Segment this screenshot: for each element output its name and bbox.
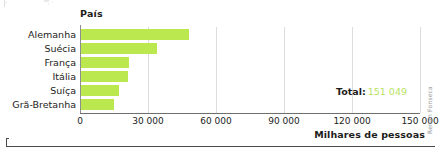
bar-row: [81, 99, 420, 110]
category-label: Suíça: [0, 85, 76, 96]
x-axis-line: [80, 113, 420, 114]
scan-artifact: [48, 3, 49, 5]
x-tick-label: 90 000: [268, 116, 300, 126]
bar-row: [81, 43, 420, 54]
page-bottom-rule-hook: [6, 138, 7, 147]
credit-text: Renan Fonseca: [426, 86, 433, 134]
bar: [81, 57, 129, 68]
scan-artifact: [5, 2, 7, 3]
bar: [81, 43, 157, 54]
x-tick-label: 0: [77, 116, 83, 126]
category-label: Grã-Bretanha: [0, 99, 76, 110]
bar: [81, 71, 128, 82]
bar-row: [81, 71, 420, 82]
bar-row: [81, 29, 420, 40]
category-label: Suécia: [0, 43, 76, 54]
total-value: 151 049: [368, 86, 407, 97]
category-label: Itália: [0, 71, 76, 82]
x-tick-label: 150 000: [401, 116, 438, 126]
bar-series: [81, 27, 420, 113]
x-tick-label: 30 000: [132, 116, 164, 126]
total-annotation: Total:151 049: [336, 86, 407, 97]
x-tick-label: 60 000: [200, 116, 232, 126]
gridline: [420, 27, 421, 113]
x-axis-tick-labels: 0 30 000 60 000 90 000 120 000 150 000: [80, 116, 420, 130]
page-bottom-rule: [6, 146, 435, 147]
plot-area: [80, 27, 420, 113]
bar-row: [81, 57, 420, 68]
bar: [81, 29, 189, 40]
category-label: Alemanha: [0, 29, 76, 40]
category-label-list: Alemanha Suécia França Itália Suíça Grã-…: [0, 27, 76, 113]
bar: [81, 99, 114, 110]
category-label: França: [0, 57, 76, 68]
x-axis-title: Milhares de pessoas: [314, 129, 425, 140]
scan-artifact: [44, 0, 49, 2]
x-tick-label: 120 000: [333, 116, 370, 126]
scan-artifact: [52, 1, 53, 2]
bar: [81, 85, 119, 96]
total-label: Total:: [336, 86, 366, 97]
y-axis-title: País: [80, 8, 103, 19]
